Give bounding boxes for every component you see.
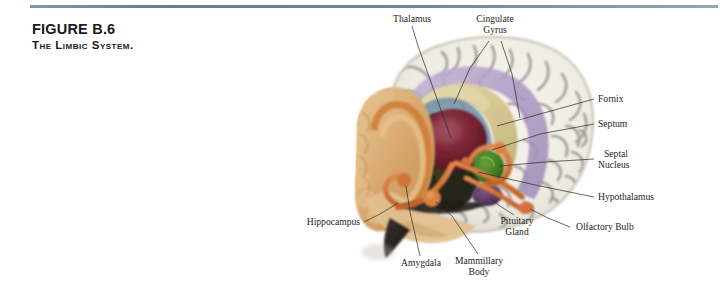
label-septal-nucleus: Septal Nucleus bbox=[604, 148, 629, 170]
label-mammillary-body: Mammillary Body bbox=[446, 255, 512, 277]
label-pituitary-gland: Pituitary Gland bbox=[486, 215, 548, 237]
label-cingulate-gyrus: Cingulate Gyrus bbox=[463, 13, 527, 35]
amygdala-node bbox=[397, 173, 411, 187]
label-thalamus: Thalamus bbox=[380, 13, 444, 24]
label-amygdala: Amygdala bbox=[391, 257, 451, 268]
label-fornix: Fornix bbox=[598, 93, 624, 104]
label-olfactory-bulb: Olfactory Bulb bbox=[576, 221, 634, 232]
label-hippocampus: Hippocampus bbox=[294, 216, 360, 227]
figure-page: FIGURE B.6 The Limbic System. bbox=[0, 0, 728, 299]
label-septum: Septum bbox=[598, 118, 627, 129]
olfactory-bulb-node bbox=[518, 202, 534, 214]
label-hypothalamus: Hypothalamus bbox=[598, 191, 654, 202]
